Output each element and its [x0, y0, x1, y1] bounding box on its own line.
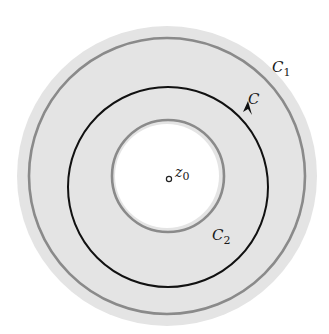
- label-c: C: [248, 90, 260, 108]
- inner-disk: [115, 124, 219, 228]
- annulus-diagram: z0 C1 C C2: [0, 0, 329, 334]
- label-c1: C1: [272, 58, 290, 79]
